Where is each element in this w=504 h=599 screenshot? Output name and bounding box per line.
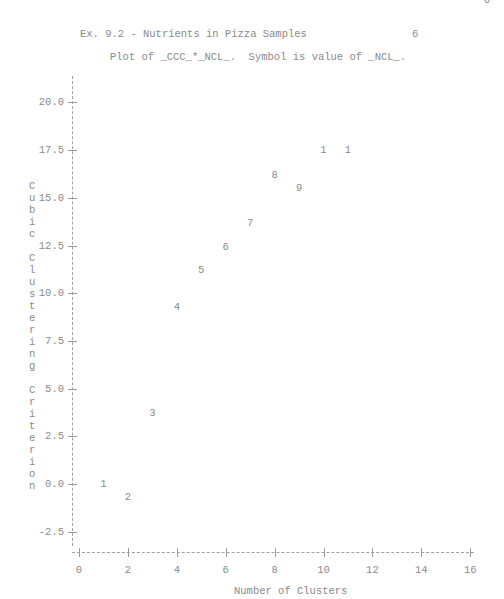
y-label-char: u bbox=[29, 277, 35, 288]
y-axis-line bbox=[72, 76, 73, 546]
x-tick-mark bbox=[128, 548, 129, 557]
y-label-char: C bbox=[29, 181, 35, 192]
y-label-char: t bbox=[29, 421, 35, 432]
y-tick-mark bbox=[68, 102, 77, 103]
y-tick-mark bbox=[68, 484, 77, 485]
y-label-char: o bbox=[29, 469, 35, 480]
y-tick-mark bbox=[68, 341, 77, 342]
y-tick-label: 7.5 bbox=[16, 336, 64, 347]
data-point: 5 bbox=[198, 265, 204, 276]
y-label-char: r bbox=[29, 325, 35, 336]
x-tick-label: 2 bbox=[125, 565, 131, 576]
y-tick-label: 12.5 bbox=[16, 241, 64, 252]
data-point: 1 bbox=[345, 145, 351, 156]
y-label-char: l bbox=[29, 265, 35, 276]
y-tick-mark bbox=[68, 150, 77, 151]
y-label-char: r bbox=[29, 445, 35, 456]
plot-subtitle: Plot of _CCC_*_NCL_. Symbol is value of … bbox=[110, 52, 406, 63]
y-label-char: n bbox=[29, 481, 35, 492]
y-label-char: i bbox=[29, 337, 35, 348]
x-tick-label: 4 bbox=[174, 565, 180, 576]
x-tick-mark bbox=[421, 548, 422, 557]
y-label-char: i bbox=[29, 409, 35, 420]
y-label-char: i bbox=[29, 457, 35, 468]
x-tick-label: 0 bbox=[76, 565, 82, 576]
x-tick-label: 16 bbox=[464, 565, 477, 576]
y-tick-label: 2.5 bbox=[16, 431, 64, 442]
y-tick-label: -2.5 bbox=[16, 527, 64, 538]
x-tick-label: 10 bbox=[317, 565, 330, 576]
x-tick-mark bbox=[372, 548, 373, 557]
y-tick-mark bbox=[68, 198, 77, 199]
data-point: 7 bbox=[247, 217, 253, 228]
x-tick-label: 14 bbox=[415, 565, 428, 576]
x-tick-label: 12 bbox=[366, 565, 379, 576]
y-tick-mark bbox=[68, 436, 77, 437]
report-title: Ex. 9.2 - Nutrients in Pizza Samples bbox=[80, 29, 307, 40]
y-tick-label: 0.0 bbox=[16, 479, 64, 490]
y-label-char: t bbox=[29, 301, 35, 312]
x-tick-mark bbox=[226, 548, 227, 557]
data-point: 4 bbox=[174, 301, 180, 312]
x-axis-line bbox=[72, 552, 474, 553]
y-label-char: C bbox=[29, 385, 35, 396]
data-point: 1 bbox=[320, 145, 326, 156]
x-axis-label: Number of Clusters bbox=[234, 586, 347, 597]
y-tick-mark bbox=[68, 532, 77, 533]
corner-page-mark: 6 bbox=[484, 0, 490, 6]
y-label-char: e bbox=[29, 433, 35, 444]
y-label-char: b bbox=[29, 205, 35, 216]
x-tick-mark bbox=[324, 548, 325, 557]
x-tick-mark bbox=[177, 548, 178, 557]
y-label-char: s bbox=[29, 289, 35, 300]
y-tick-label: 5.0 bbox=[16, 384, 64, 395]
y-tick-label: 20.0 bbox=[16, 97, 64, 108]
y-tick-mark bbox=[68, 389, 77, 390]
y-label-char: c bbox=[29, 229, 35, 240]
data-point: 6 bbox=[223, 242, 229, 253]
y-tick-label: 10.0 bbox=[16, 288, 64, 299]
y-tick-mark bbox=[68, 246, 77, 247]
x-tick-label: 6 bbox=[223, 565, 229, 576]
y-tick-label: 15.0 bbox=[16, 193, 64, 204]
data-point: 3 bbox=[149, 408, 155, 419]
x-tick-mark bbox=[275, 548, 276, 557]
y-tick-mark bbox=[68, 293, 77, 294]
y-tick-label: 17.5 bbox=[16, 145, 64, 156]
y-label-char: n bbox=[29, 349, 35, 360]
x-tick-label: 8 bbox=[271, 565, 277, 576]
page-number: 6 bbox=[412, 29, 418, 40]
y-label-char: i bbox=[29, 217, 35, 228]
y-label-char: C bbox=[29, 253, 35, 264]
y-label-char: u bbox=[29, 193, 35, 204]
y-label-char: g bbox=[29, 361, 35, 372]
x-tick-mark bbox=[79, 548, 80, 557]
y-label-char: r bbox=[29, 397, 35, 408]
data-point: 9 bbox=[296, 183, 302, 194]
y-label-char: e bbox=[29, 313, 35, 324]
data-point: 1 bbox=[100, 479, 106, 490]
data-point: 8 bbox=[271, 170, 277, 181]
data-point: 2 bbox=[125, 492, 131, 503]
x-tick-mark bbox=[470, 548, 471, 557]
